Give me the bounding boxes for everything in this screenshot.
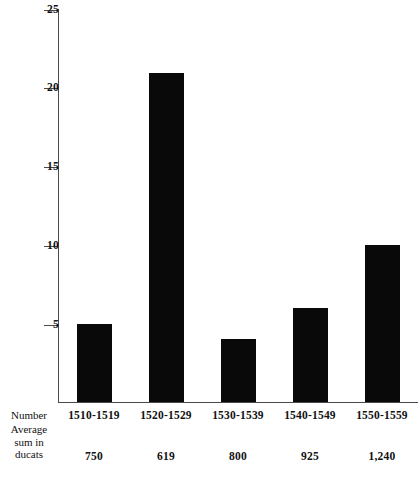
- cell-decade: 1540-1549: [274, 409, 346, 421]
- cell-decade: 1510-1519: [58, 409, 130, 421]
- cell-ducats: 750: [58, 450, 130, 462]
- y-tick-label: 15: [23, 158, 59, 175]
- cell-ducats: 619: [130, 450, 202, 462]
- bar-1550-1559: [365, 245, 400, 402]
- y-tick-label: 5: [23, 316, 59, 333]
- row-label-average: Average sum in ducats: [0, 423, 58, 461]
- cell-ducats: 1,240: [346, 450, 418, 462]
- data-table: Number Average sum in ducats 1510-1519 1…: [0, 404, 418, 478]
- y-tick-20: 20: [0, 88, 59, 89]
- row-label-average-line1: Average: [0, 423, 58, 436]
- row-label-average-line3: ducats: [0, 448, 58, 461]
- bar-1510-1519: [77, 324, 112, 402]
- x-axis-line: [58, 402, 418, 403]
- bar-1520-1529: [149, 73, 184, 402]
- y-tick-25: 25: [0, 10, 59, 11]
- y-tick-label: 20: [23, 79, 59, 96]
- bar-1540-1549: [293, 308, 328, 402]
- y-axis-line: [58, 9, 59, 403]
- bar-1530-1539: [221, 339, 256, 402]
- cell-ducats: 800: [202, 450, 274, 462]
- cell-ducats: 925: [274, 450, 346, 462]
- y-tick-10: 10: [0, 246, 59, 247]
- bar-chart-figure: 25 20 15 10 5 Number Average sum in: [0, 0, 418, 478]
- plot-area: 25 20 15 10 5: [0, 0, 418, 404]
- y-tick-label: 10: [23, 237, 59, 254]
- row-label-average-line2: sum in: [0, 436, 58, 449]
- y-tick-5: 5: [0, 325, 59, 326]
- y-tick-15: 15: [0, 167, 59, 168]
- row-label-number: Number: [0, 409, 58, 422]
- y-tick-label: 25: [23, 1, 59, 18]
- cell-decade: 1520-1529: [130, 409, 202, 421]
- cell-decade: 1530-1539: [202, 409, 274, 421]
- cell-decade: 1550-1559: [346, 409, 418, 421]
